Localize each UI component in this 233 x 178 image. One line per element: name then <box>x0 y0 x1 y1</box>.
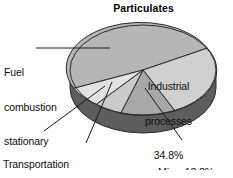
slice-label-industrial-line1: Industrial <box>145 81 192 93</box>
slice-label-fuel-line1: Fuel <box>4 67 57 79</box>
slice-label-industrial-line2: processes <box>145 116 192 128</box>
pie-chart-figure: Particulates Fuel combustion stationary … <box>0 0 233 178</box>
slice-label-fuel-line2: combustion <box>4 102 57 114</box>
slice-label-transportation-line1: Transportation <box>3 159 69 171</box>
page-bottom-margin <box>0 170 233 178</box>
